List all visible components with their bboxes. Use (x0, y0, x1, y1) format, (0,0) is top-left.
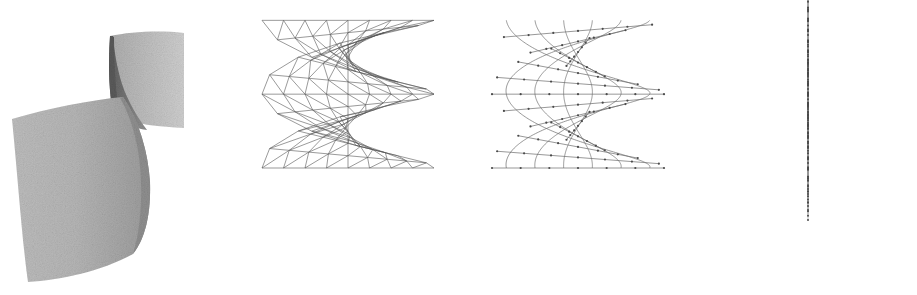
panel-triangulated-wireframe (230, 0, 460, 295)
panel-shaded-surface (0, 0, 230, 295)
isocurve-markers-group (491, 24, 665, 170)
rulings-svg (690, 0, 917, 295)
shaded-surface-svg (0, 0, 230, 295)
shaded-surface-body (12, 32, 184, 282)
figure-container (0, 0, 917, 295)
panel-vertical-rulings (690, 0, 917, 295)
isocurves-svg (460, 0, 690, 295)
panel-isoparametric-curves (460, 0, 690, 295)
surface-lower-sheet (12, 97, 150, 282)
wireframe-mesh-svg (230, 0, 460, 295)
wireframe-mesh-group (262, 20, 434, 168)
